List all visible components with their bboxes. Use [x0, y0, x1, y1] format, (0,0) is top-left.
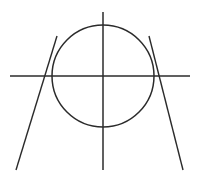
geometry-figure-svg: [0, 0, 199, 181]
geometry-figure-canvas: [0, 0, 199, 181]
figure-background: [0, 0, 199, 181]
